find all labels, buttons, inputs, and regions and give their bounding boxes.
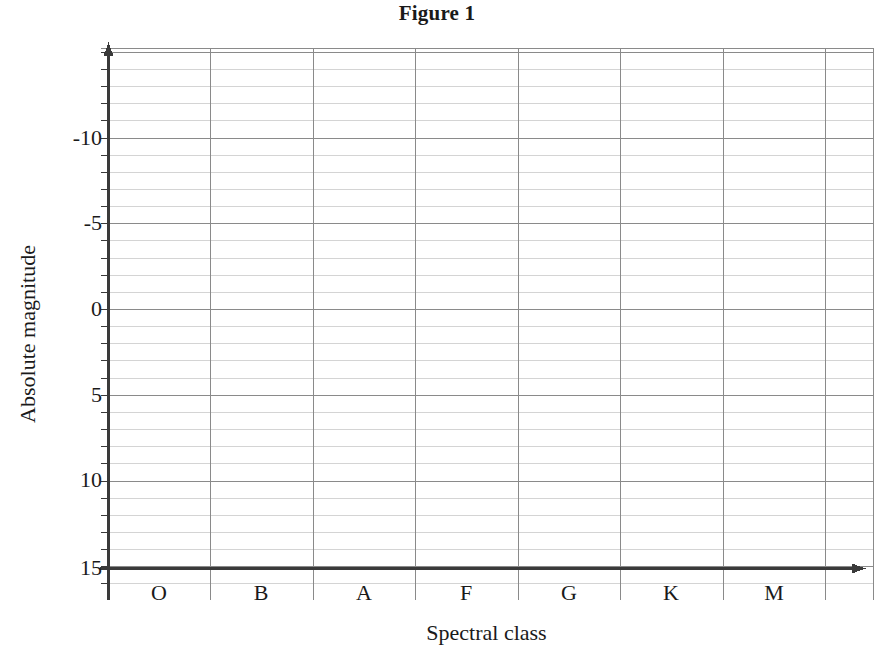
x-axis-line	[100, 564, 866, 574]
y-tick-label: -5	[42, 212, 102, 234]
vertical-gridlines	[211, 48, 874, 600]
y-tick-label: 10	[42, 469, 102, 491]
y-axis-tick-labels: -10 -5 0 5 10 15	[40, 0, 102, 658]
x-axis-arrow-icon	[852, 564, 866, 574]
x-tick-label-b: B	[254, 581, 269, 605]
chart-plot-area: -10 -5 0 5 10 15 O B A F G K M Absolute …	[0, 0, 874, 658]
major-horizontal-gridlines	[101, 49, 874, 567]
x-tick-label-f: F	[460, 581, 472, 605]
x-axis-title: Spectral class	[108, 620, 865, 646]
x-tick-label-k: K	[663, 581, 679, 605]
x-tick-label-a: A	[356, 581, 372, 605]
y-tick-label: 15	[42, 557, 102, 579]
y-tick-label: -10	[42, 127, 102, 149]
y-axis-title: Absolute magnitude	[16, 194, 40, 474]
x-tick-label-m: M	[764, 581, 784, 605]
y-tick-label: 5	[42, 384, 102, 406]
x-tick-label-o: O	[151, 581, 167, 605]
x-tick-label-g: G	[561, 581, 577, 605]
y-axis-line	[104, 42, 114, 600]
y-tick-label: 0	[42, 298, 102, 320]
minor-horizontal-gridlines	[101, 70, 874, 584]
chart-grid	[0, 0, 874, 658]
